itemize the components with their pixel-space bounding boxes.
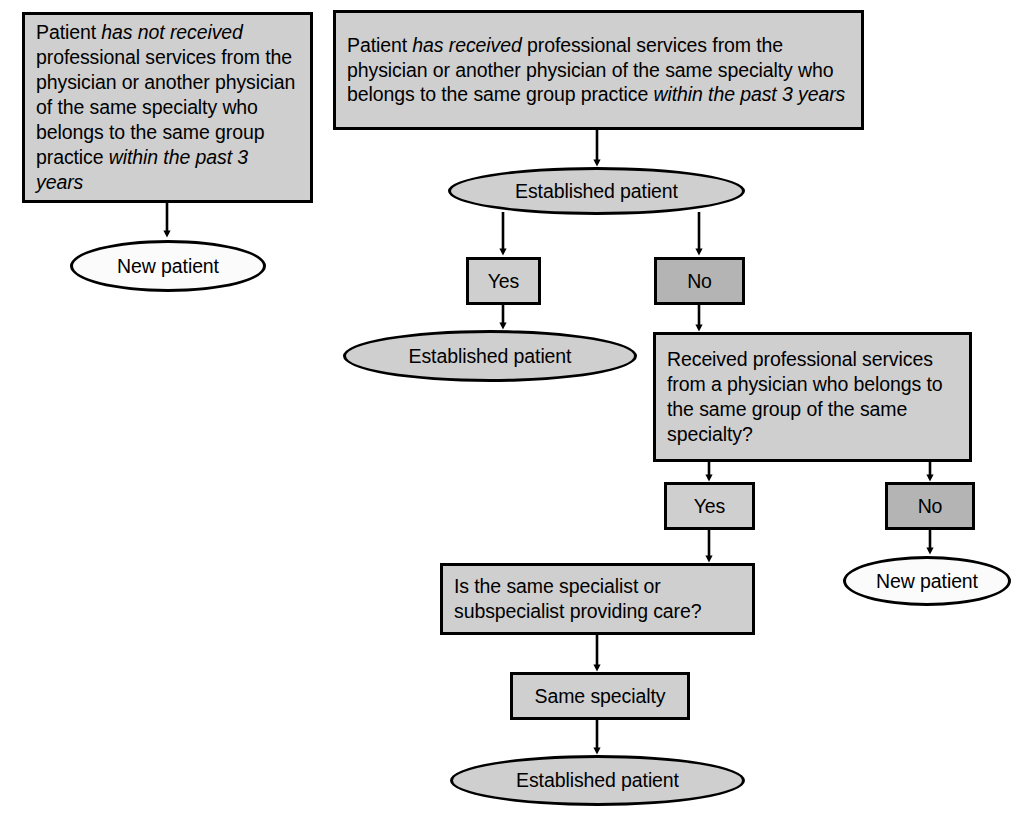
same-group-yes-label: Yes	[667, 494, 752, 519]
node-left-criteria: Patient has not received professional se…	[22, 12, 313, 203]
node-same-group-no-outcome-new-patient: New patient	[843, 556, 1011, 606]
node-same-specialty: Same specialty	[510, 672, 690, 720]
established-yes-label: Yes	[469, 269, 538, 294]
established-no-label: No	[657, 269, 742, 294]
node-established-patient-question: Established patient	[448, 167, 745, 215]
node-right-criteria: Patient has received professional servic…	[333, 10, 864, 130]
left-criteria-text: Patient has not received professional se…	[36, 20, 299, 195]
node-same-group-yes: Yes	[664, 482, 755, 530]
node-final-outcome-established-patient: Established patient	[450, 755, 745, 806]
node-specialist-question: Is the same specialist or subspecialist …	[440, 563, 755, 635]
node-same-group-question: Received professional services from a ph…	[653, 332, 972, 462]
node-same-group-no: No	[885, 482, 975, 530]
node-established-no: No	[654, 257, 745, 305]
node-left-outcome-new-patient: New patient	[70, 240, 266, 292]
same-group-no-label: No	[888, 494, 972, 519]
same-group-no-outcome-label: New patient	[846, 570, 1008, 593]
left-outcome-label: New patient	[73, 255, 263, 278]
same-specialty-label: Same specialty	[513, 684, 687, 709]
flowchart-canvas: Patient has not received professional se…	[0, 0, 1031, 832]
specialist-question-text: Is the same specialist or subspecialist …	[454, 574, 741, 624]
right-criteria-text: Patient has received professional servic…	[347, 33, 850, 108]
final-outcome-label: Established patient	[453, 769, 742, 792]
node-established-yes: Yes	[466, 257, 541, 305]
established-question-label: Established patient	[451, 180, 742, 203]
same-group-question-text: Received professional services from a ph…	[667, 347, 958, 447]
node-established-yes-outcome: Established patient	[343, 330, 637, 382]
established-yes-outcome-label: Established patient	[346, 345, 634, 368]
